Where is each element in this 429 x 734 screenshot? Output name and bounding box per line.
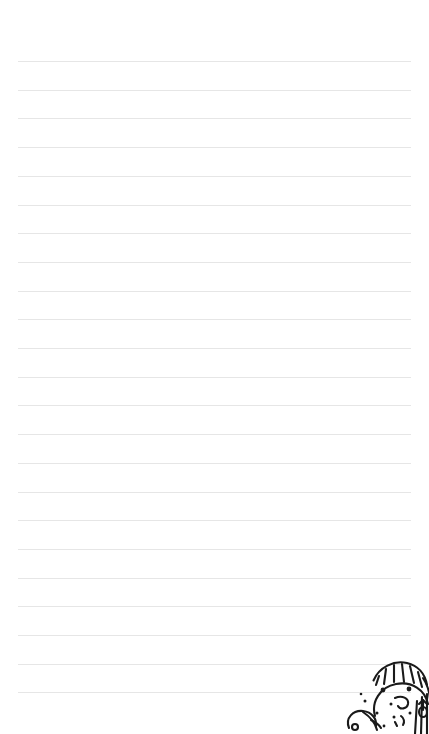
rule-line xyxy=(18,348,411,349)
rule-line xyxy=(18,463,411,464)
rule-line xyxy=(18,635,411,636)
rule-line xyxy=(18,118,411,119)
rule-line xyxy=(18,61,411,62)
rule-line xyxy=(18,692,411,693)
rule-line xyxy=(18,405,411,406)
rule-line xyxy=(18,90,411,91)
rule-line xyxy=(18,549,411,550)
rule-line xyxy=(18,176,411,177)
notepad-page xyxy=(0,0,429,734)
rule-line xyxy=(18,319,411,320)
rule-line xyxy=(18,377,411,378)
rule-line xyxy=(18,262,411,263)
rule-line xyxy=(18,291,411,292)
rule-line xyxy=(18,205,411,206)
rule-line xyxy=(18,147,411,148)
rule-line xyxy=(18,578,411,579)
rule-line xyxy=(18,606,411,607)
rule-line xyxy=(18,664,411,665)
rule-line xyxy=(18,233,411,234)
rule-line xyxy=(18,520,411,521)
rule-line xyxy=(18,434,411,435)
rule-line xyxy=(18,492,411,493)
ruled-lines-group xyxy=(0,0,429,734)
